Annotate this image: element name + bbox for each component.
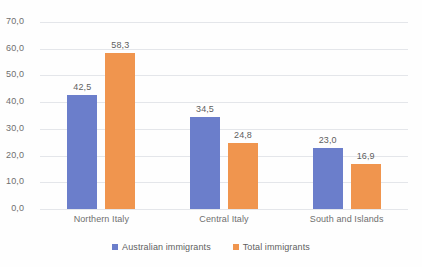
legend-label: Total immigrants xyxy=(243,242,310,252)
bar-australian-immigrants[interactable] xyxy=(190,117,220,209)
bar-slot: 42,5 xyxy=(67,22,97,209)
y-axis-tick-label: 60,0 xyxy=(0,44,24,53)
plot-area: 0,010,020,030,040,050,060,070,0 42,558,3… xyxy=(40,22,408,209)
bar-pair: 34,524,8 xyxy=(163,22,286,209)
bar-value-label: 34,5 xyxy=(196,104,214,114)
bar-slot: 16,9 xyxy=(351,22,381,209)
bar-pair: 42,558,3 xyxy=(40,22,163,209)
bar-value-label: 42,5 xyxy=(73,82,91,92)
chart-legend: Australian immigrantsTotal immigrants xyxy=(0,240,422,254)
category-axis-label: Central Italy xyxy=(163,212,286,228)
bar-australian-immigrants[interactable] xyxy=(67,95,97,209)
y-axis-tick-label: 30,0 xyxy=(0,124,24,133)
gridline xyxy=(40,209,408,210)
y-axis-tick-label: 50,0 xyxy=(0,70,24,79)
bar-group: 34,524,8 xyxy=(163,22,286,209)
category-axis-label: Northern Italy xyxy=(40,212,163,228)
legend-label: Australian immigrants xyxy=(122,242,211,252)
bar-value-label: 24,8 xyxy=(234,130,252,140)
category-axis-label: South and Islands xyxy=(285,212,408,228)
bar-value-label: 16,9 xyxy=(357,151,375,161)
bar-pair: 23,016,9 xyxy=(285,22,408,209)
legend-swatch-icon xyxy=(112,244,118,250)
bar-value-label: 23,0 xyxy=(319,135,337,145)
bar-slot: 34,5 xyxy=(190,22,220,209)
bar-total-immigrants[interactable] xyxy=(351,164,381,209)
bar-slot: 58,3 xyxy=(105,22,135,209)
bar-total-immigrants[interactable] xyxy=(228,143,258,209)
bar-group-container: 42,558,334,524,823,016,9 xyxy=(40,22,408,209)
category-axis: Northern ItalyCentral ItalySouth and Isl… xyxy=(40,212,408,228)
legend-swatch-icon xyxy=(233,244,239,250)
bar-chart: 0,010,020,030,040,050,060,070,0 42,558,3… xyxy=(0,0,422,267)
y-axis-tick-label: 40,0 xyxy=(0,97,24,106)
bar-group: 42,558,3 xyxy=(40,22,163,209)
y-axis-tick-label: 70,0 xyxy=(0,17,24,26)
bar-slot: 24,8 xyxy=(228,22,258,209)
legend-item[interactable]: Australian immigrants xyxy=(112,242,211,252)
bar-group: 23,016,9 xyxy=(285,22,408,209)
bar-australian-immigrants[interactable] xyxy=(313,148,343,209)
y-axis-tick-label: 0,0 xyxy=(0,204,24,213)
bar-total-immigrants[interactable] xyxy=(105,53,135,209)
legend-item[interactable]: Total immigrants xyxy=(233,242,310,252)
bar-value-label: 58,3 xyxy=(111,40,129,50)
y-axis-tick-label: 10,0 xyxy=(0,177,24,186)
bar-slot: 23,0 xyxy=(313,22,343,209)
y-axis-tick-label: 20,0 xyxy=(0,151,24,160)
